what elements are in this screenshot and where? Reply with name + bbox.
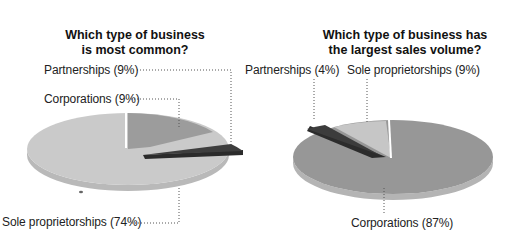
chart1-label-corporations: Corporations (9%) [44,92,140,106]
chart2-label-partnerships: Partnerships (4%) [245,63,339,77]
chart2-label-sole-proprietorships: Sole proprietorships (9%) [347,63,480,77]
chart1-label-partnerships: Partnerships (9%) [44,63,138,77]
pie-charts-graphic [0,0,506,250]
chart1-mark [79,191,83,193]
chart1-pie [27,113,243,193]
chart1-label-sole-proprietorships: Sole proprietorships (74%) [2,215,141,229]
chart2-label-corporations: Corporations (87%) [351,216,453,230]
chart2-pie [293,120,493,200]
